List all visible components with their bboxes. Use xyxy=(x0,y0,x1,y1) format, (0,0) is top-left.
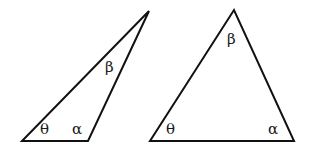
angle-beta-label: β xyxy=(105,58,114,76)
acute-triangle: θ α β xyxy=(150,10,294,141)
angle-theta-label: θ xyxy=(166,120,175,138)
angle-alpha-label: α xyxy=(72,120,82,138)
obtuse-triangle: θ α β xyxy=(22,11,149,141)
angle-theta-label: θ xyxy=(40,120,49,138)
angle-alpha-label: α xyxy=(268,120,278,138)
angle-beta-label: β xyxy=(227,30,236,48)
diagram-canvas: θ α β θ α β xyxy=(0,0,313,148)
